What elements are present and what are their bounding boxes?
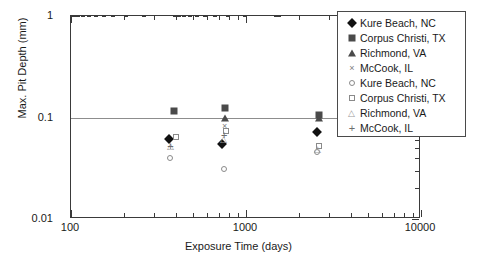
marker-filled-diamond-icon — [347, 18, 357, 28]
x-tick-top-2000 — [299, 16, 300, 20]
x-tick-label-100: 100 — [61, 222, 79, 233]
legend-swatch-cross-icon: × — [344, 61, 360, 75]
legend-swatch-open-square-icon — [344, 91, 360, 105]
x-tick-9000 — [413, 213, 414, 217]
y-tick-label-0.01: 0.01 — [32, 213, 53, 224]
data-point-s7-p0: + — [166, 142, 174, 150]
legend-item-7[interactable]: +McCook, IL — [338, 120, 465, 135]
legend-label-5: Corpus Christi, TX — [360, 91, 446, 105]
data-point-s4-p0 — [167, 155, 173, 161]
legend-swatch-open-triangle-icon — [344, 106, 360, 120]
data-point-s4-p1 — [221, 166, 227, 172]
marker-filled-square-icon — [349, 34, 356, 41]
legend-item-3[interactable]: ×McCook, IL — [338, 60, 465, 75]
x-tick-800 — [229, 213, 230, 217]
x-axis-title: Exposure Time (days) — [0, 240, 477, 252]
x-tick-10000 — [421, 210, 422, 217]
y-tick-0.8 — [81, 16, 85, 17]
legend-label-3: McCook, IL — [360, 61, 413, 75]
x-tick-900 — [238, 213, 239, 217]
x-tick-top-100 — [71, 16, 72, 23]
y-tick-0.04 — [213, 16, 217, 17]
legend-label-1: Corpus Christi, TX — [360, 31, 446, 45]
data-point-s0-p0 — [164, 134, 174, 144]
x-tick-200 — [124, 213, 125, 217]
marker-open-circle-icon — [349, 80, 355, 86]
legend-swatch-filled-triangle-icon — [344, 46, 360, 60]
marker-filled-triangle-icon — [348, 49, 356, 56]
x-tick-top-3000 — [329, 16, 330, 20]
x-tick-label-1000: 1000 — [233, 222, 257, 233]
y-tick-0.06 — [195, 16, 199, 17]
legend-label-2: Richmond, VA — [360, 46, 426, 60]
legend-label-7: McCook, IL — [360, 121, 413, 135]
legend-item-4[interactable]: Kure Beach, NC — [338, 75, 465, 90]
y-tick-right-0.01 — [412, 219, 419, 220]
y-tick-0.08 — [182, 16, 186, 17]
legend-item-6[interactable]: Richmond, VA — [338, 105, 465, 120]
data-point-s0-p2 — [312, 127, 322, 137]
data-point-s5-p0 — [173, 134, 179, 140]
x-tick-top-300 — [154, 16, 155, 20]
x-tick-top-1000 — [246, 16, 247, 23]
data-point-s7-p1: + — [220, 131, 228, 139]
x-tick-top-200 — [124, 16, 125, 20]
legend-label-4: Kure Beach, NC — [360, 76, 436, 90]
y-tick-right-0.06 — [415, 140, 419, 141]
data-point-s5-p2 — [316, 143, 322, 149]
y-tick-label-1: 1 — [47, 10, 53, 21]
y-tick-0.4 — [111, 16, 115, 17]
marker-open-triangle-icon — [348, 109, 356, 116]
legend-item-5[interactable]: Corpus Christi, TX — [338, 90, 465, 105]
x-tick-300 — [154, 213, 155, 217]
x-tick-top-900 — [238, 16, 239, 20]
data-point-s4-p2 — [314, 149, 320, 155]
marker-open-square-icon — [349, 95, 355, 101]
data-point-s3-p0: × — [221, 122, 229, 130]
data-point-s5-p1 — [223, 128, 229, 134]
x-tick-6000 — [382, 213, 383, 217]
legend-label-6: Richmond, VA — [360, 106, 426, 120]
x-tick-2000 — [299, 213, 300, 217]
y-tick-1 — [71, 16, 78, 17]
x-tick-7000 — [394, 213, 395, 217]
x-tick-top-500 — [193, 16, 194, 20]
legend-item-0[interactable]: Kure Beach, NC — [338, 15, 465, 30]
x-tick-top-600 — [207, 16, 208, 20]
y-tick-right-0.02 — [415, 188, 419, 189]
x-tick-500 — [193, 213, 194, 217]
x-tick-8000 — [404, 213, 405, 217]
data-point-s1-p1 — [222, 104, 229, 111]
x-tick-600 — [207, 213, 208, 217]
data-point-s1-p0 — [171, 108, 178, 115]
y-tick-0.2 — [142, 16, 146, 17]
y-tick-right-0.05 — [415, 148, 419, 149]
data-point-s0-p1 — [217, 139, 227, 149]
y-tick-label-0.1: 0.1 — [38, 112, 53, 123]
y-tick-right-0.04 — [415, 158, 419, 159]
x-tick-label-10000: 10000 — [405, 222, 436, 233]
data-point-s6-p1 — [220, 135, 228, 142]
legend-label-0: Kure Beach, NC — [360, 16, 436, 30]
data-point-s6-p2 — [314, 145, 322, 152]
x-tick-1000 — [246, 210, 247, 217]
x-tick-3000 — [329, 213, 330, 217]
legend-item-2[interactable]: Richmond, VA — [338, 45, 465, 60]
marker-plus-icon: + — [348, 124, 356, 132]
x-tick-5000 — [368, 213, 369, 217]
x-tick-100 — [71, 210, 72, 217]
legend-item-1[interactable]: Corpus Christi, TX — [338, 30, 465, 45]
legend-swatch-open-circle-icon — [344, 76, 360, 90]
chart-figure: Max. Pit Depth (mm) 1 0.1 0.01 100 1000 … — [0, 0, 477, 262]
y-tick-0.07 — [188, 16, 192, 17]
y-tick-0.6000000000000001 — [94, 16, 98, 17]
chart-legend: Kure Beach, NCCorpus Christi, TXRichmond… — [337, 11, 466, 137]
y-tick-right-0.03 — [415, 171, 419, 172]
y-tick-0.7000000000000001 — [87, 16, 91, 17]
marker-cross-icon: × — [348, 64, 356, 72]
y-tick-0.5 — [102, 16, 106, 17]
legend-swatch-filled-diamond-icon — [344, 16, 360, 30]
y-tick-0.01 — [274, 16, 281, 17]
x-tick-400 — [176, 213, 177, 217]
legend-swatch-plus-icon: + — [344, 121, 360, 135]
